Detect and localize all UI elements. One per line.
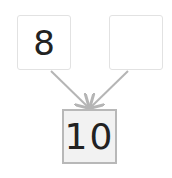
part-value-left: 8 [33,23,55,63]
whole-value: 10 [65,116,115,157]
arrow-left [51,71,88,107]
part-box-left[interactable]: 8 [17,15,71,70]
whole-box: 10 [62,109,117,164]
part-box-right-empty[interactable] [109,15,163,70]
arrow-right [91,71,128,107]
